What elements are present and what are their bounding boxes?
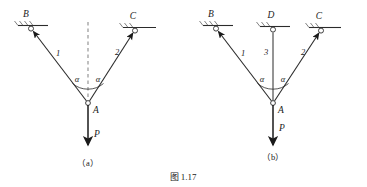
support-d-b: D — [257, 10, 291, 32]
joint-label-a: A — [92, 105, 99, 115]
support-b-b: B — [200, 9, 234, 31]
member-label-3-b: 3 — [263, 47, 268, 57]
angle-label-left-b: α — [260, 74, 265, 84]
member-label-1-a: 1 — [56, 48, 60, 58]
angle-label-right-a: α — [96, 74, 101, 84]
subcaption-b: （b） — [262, 152, 284, 162]
joint-a-node — [86, 101, 91, 106]
support-label-c-b: C — [316, 11, 323, 21]
support-label-d-b: D — [267, 10, 275, 20]
load-label-b: P — [278, 123, 285, 133]
support-label-c-a: C — [130, 11, 137, 21]
joint-b-node — [271, 101, 276, 106]
figure-caption: 图 1.17 — [170, 172, 198, 182]
member-1-a — [34, 32, 87, 102]
member-2-b — [275, 33, 319, 101]
member-1-b — [219, 32, 272, 102]
panel-a: B C 1 2 α α — [15, 9, 157, 168]
angle-label-left-a: α — [75, 74, 80, 84]
member-label-1-b: 1 — [241, 48, 245, 58]
load-label-a: P — [93, 129, 100, 139]
figure-1-17-svg: B C 1 2 α α — [0, 0, 367, 187]
angle-label-right-b: α — [281, 74, 286, 84]
subcaption-a: （a） — [77, 158, 99, 168]
support-c-a: C — [120, 11, 157, 33]
figure-container: B C 1 2 α α — [0, 0, 367, 187]
support-label-b-a: B — [23, 9, 29, 19]
support-c-b: C — [306, 11, 342, 33]
panel-b: B D C — [200, 9, 342, 162]
member-2-a — [90, 33, 133, 101]
support-label-b-b: B — [208, 9, 214, 19]
member-label-2-b: 2 — [301, 47, 306, 57]
support-b-a: B — [15, 9, 49, 31]
joint-label-b: A — [277, 105, 284, 115]
